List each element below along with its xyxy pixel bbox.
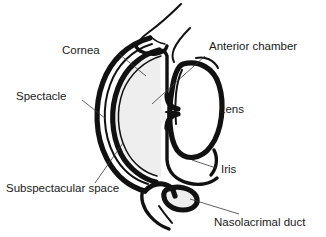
leader-spectacle (82, 100, 106, 119)
diagram-canvas: Cornea Spectacle Subspectacular space An… (0, 0, 326, 237)
sclera-posterior (211, 150, 216, 175)
label-lens: Lens (219, 103, 244, 115)
eye-anatomy-diagram: Cornea Spectacle Subspectacular space An… (0, 0, 326, 237)
lid-fold-posterior (173, 28, 191, 62)
lid-fold-outer (137, 4, 181, 53)
palpebral-crease (150, 36, 165, 44)
upper-lid-folds (136, 4, 190, 62)
label-subspectacular-space: Subspectacular space (6, 182, 119, 194)
leader-iris (192, 160, 216, 168)
label-iris: Iris (221, 163, 237, 175)
label-cornea: Cornea (62, 44, 100, 56)
label-nasolacrimal-duct: Nasolacrimal duct (214, 216, 306, 228)
label-spectacle: Spectacle (16, 90, 67, 102)
label-anterior-chamber: Anterior chamber (209, 40, 297, 52)
